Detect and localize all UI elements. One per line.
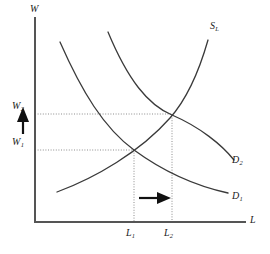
supply-curve-label-subscript: L (215, 25, 219, 32)
axes (35, 18, 245, 222)
shift-arrow-head (157, 192, 171, 204)
demand-curve-2-label: D2 (232, 155, 242, 165)
labor-label-2-subscript: 2 (170, 232, 173, 239)
demand-curve-2-label-text: D (232, 154, 239, 165)
x-axis-label: L (250, 215, 256, 225)
demand-curve-1-label: D1 (232, 191, 242, 201)
y-axis-label: W (30, 4, 38, 14)
supply-curve (57, 40, 208, 192)
labor-label-2-text: L (164, 227, 170, 238)
demand-curve-2 (108, 32, 234, 160)
curves (57, 32, 234, 193)
labor-label-1-text: L (126, 227, 132, 238)
demand-curve-1-label-text: D (232, 190, 239, 201)
demand-curve-2-label-subscript: 2 (240, 159, 243, 166)
guide-lines (35, 114, 172, 222)
labor-label-1: L1 (126, 228, 135, 238)
labor-label-1-subscript: 1 (132, 232, 135, 239)
supply-curve-label: SL (210, 21, 219, 31)
supply-demand-diagram: W L SL D2 D1 W2 W1 L1 L2 (0, 0, 270, 254)
wage-label-2-subscript: 2 (21, 105, 24, 112)
wage-label-2-text: W (12, 100, 20, 111)
wage-label-2: W2 (12, 101, 24, 111)
demand-curve-1 (60, 42, 228, 193)
labor-demand-shift-arrow (139, 192, 171, 204)
wage-label-1-text: W (12, 136, 20, 147)
diagram-canvas (0, 0, 270, 254)
wage-label-1-subscript: 1 (21, 141, 24, 148)
wage-label-1: W1 (12, 137, 24, 147)
demand-curve-1-label-subscript: 1 (240, 195, 243, 202)
labor-label-2: L2 (164, 228, 173, 238)
